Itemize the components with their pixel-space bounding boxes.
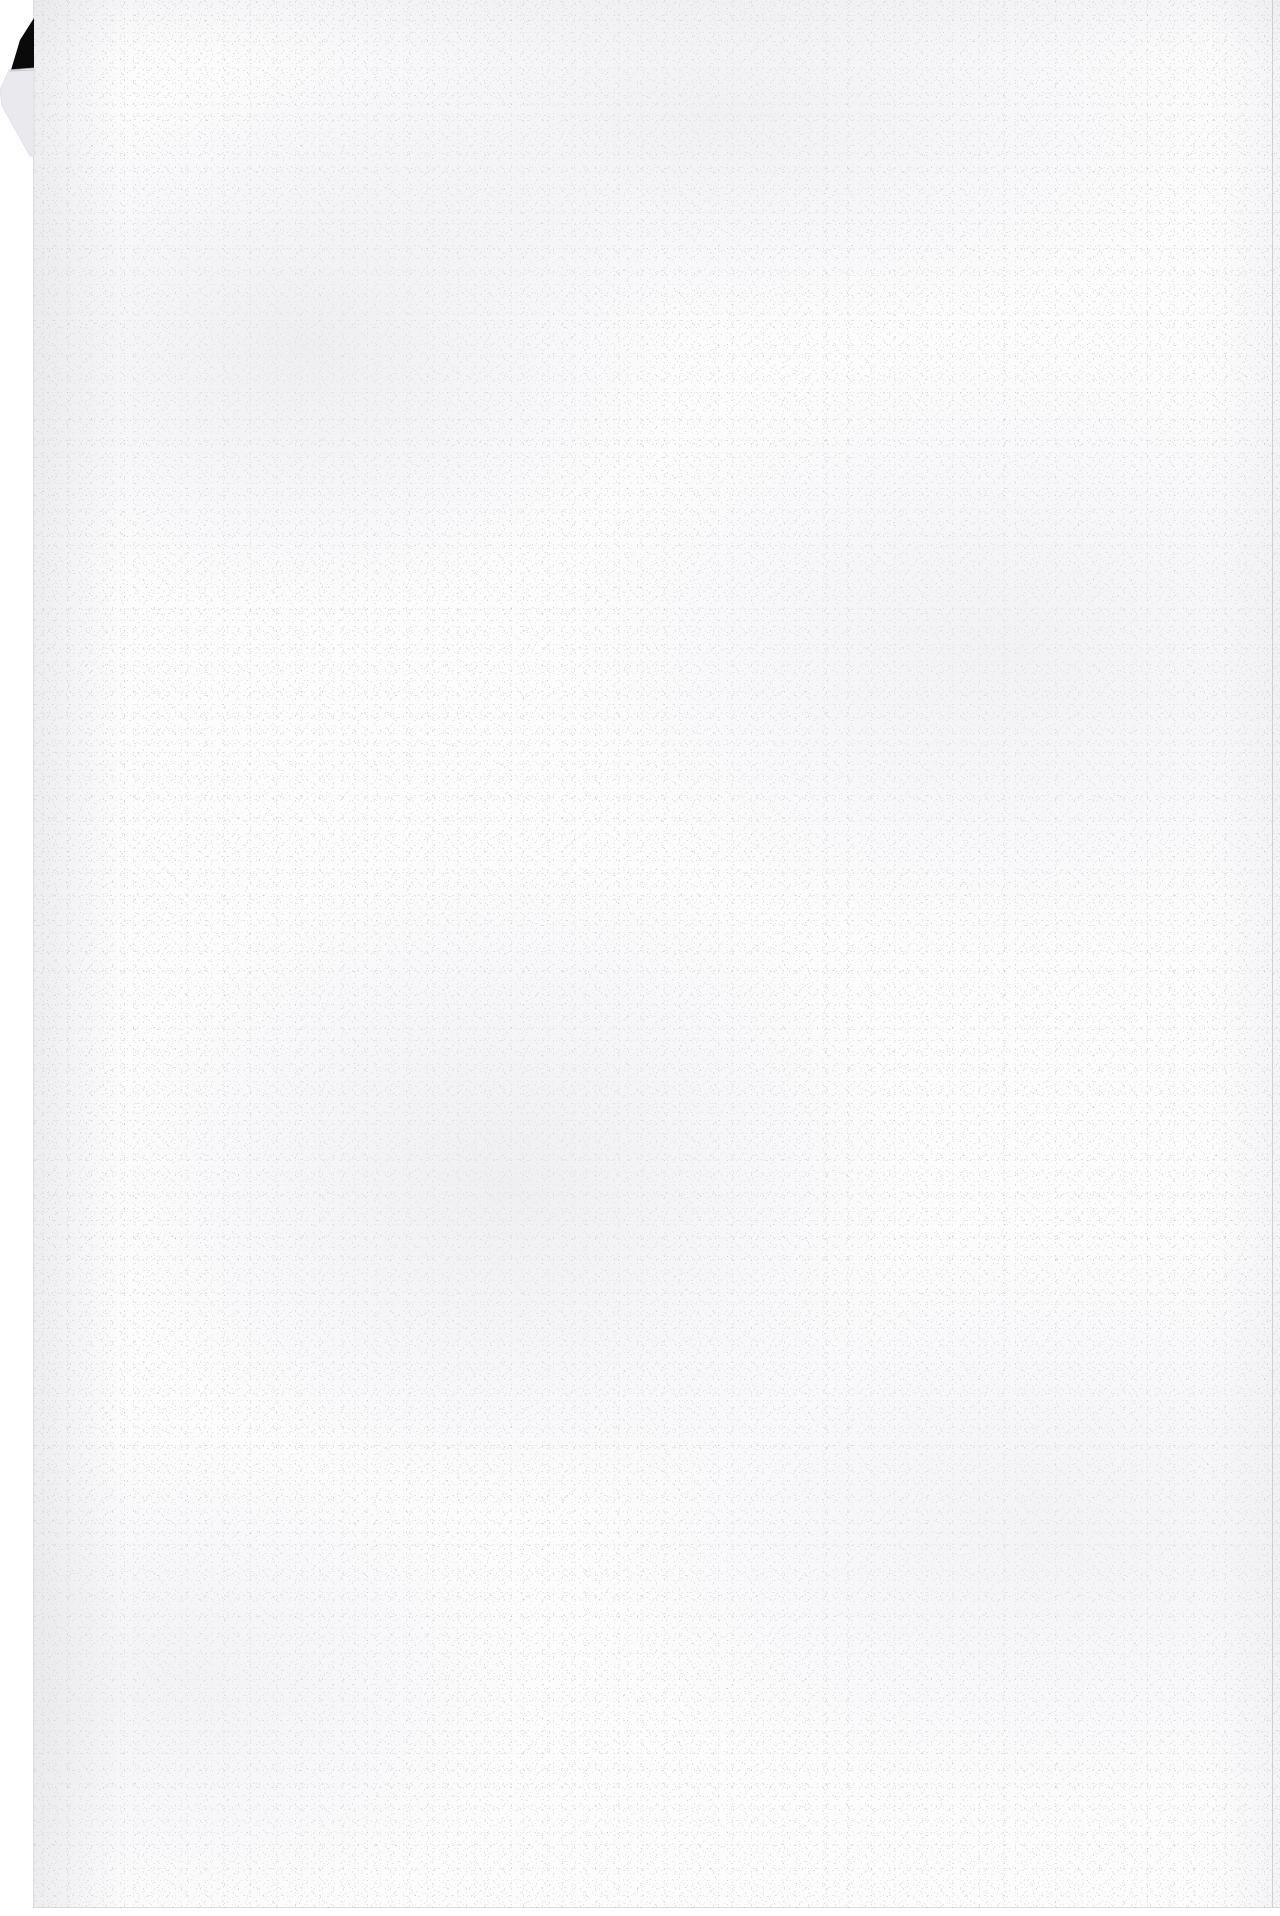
scan-margin-left: [0, 0, 33, 1916]
scan-margin-bottom: [0, 1908, 1280, 1916]
scanned-page-image: [0, 0, 1280, 1916]
page-text-body: [153, 140, 1153, 1740]
paper-sheet: [33, 0, 1280, 1908]
sheet-right-edge-rule: [1272, 0, 1273, 1908]
sheet-left-edge-rule: [33, 0, 34, 1908]
